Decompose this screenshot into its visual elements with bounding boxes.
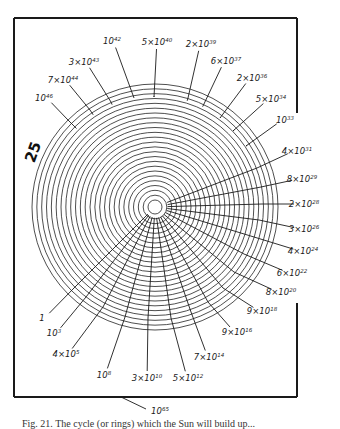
- ring-label: 1046: [35, 94, 53, 103]
- ring-label-exponent: 44: [71, 75, 78, 81]
- leader-line: [246, 124, 277, 146]
- ring-label: 2×1039: [186, 40, 216, 49]
- ring-label-exponent: 31: [305, 146, 312, 152]
- ring-label-base: 8×10: [287, 174, 310, 184]
- ring-label-exponent: 42: [114, 36, 121, 42]
- ring-label-exponent: 12: [196, 373, 203, 379]
- ring-label: 2×1028: [289, 200, 319, 209]
- leader-line: [220, 84, 246, 119]
- ring-label-base: 2×10: [289, 199, 312, 209]
- ring-label-base: 3×10: [132, 373, 155, 383]
- ring-label: 1042: [103, 37, 121, 46]
- ring-label: 3×1026: [289, 225, 319, 234]
- leader-line: [147, 218, 154, 371]
- ring-label-base: 4×10: [53, 349, 76, 359]
- ring-label: 5×1034: [256, 95, 286, 104]
- ring-label: 6×1022: [277, 269, 307, 278]
- ring-label: 3×1010: [132, 374, 162, 383]
- bottom-label: 1065: [151, 407, 169, 416]
- ring: [148, 200, 162, 214]
- ring-label: 108: [97, 371, 111, 380]
- ring-label-base: 2×10: [237, 73, 260, 83]
- ring-label: 9×1018: [247, 307, 277, 316]
- ring-label-exponent: 26: [312, 224, 319, 230]
- ring-label-base: 9×10: [247, 306, 270, 316]
- ring-label-exponent: 39: [209, 39, 216, 45]
- ring-label-exponent: 34: [279, 94, 286, 100]
- ring-label: 7×1044: [48, 76, 78, 85]
- ring-label-exponent: 5: [76, 349, 80, 355]
- ring-label: 7×1014: [194, 353, 224, 362]
- ring-label-exponent: 28: [312, 199, 319, 205]
- ring-label: 103: [47, 329, 61, 338]
- ring-label-exponent: 10: [155, 373, 162, 379]
- ring-label: 4×105: [53, 350, 80, 359]
- leader-line: [168, 204, 294, 207]
- figure-caption: Fig. 21. The cycle (or rings) which the …: [22, 418, 255, 429]
- ring-label-exponent: 43: [92, 57, 99, 63]
- ring-label-base: 9×10: [222, 327, 245, 337]
- ring-label-exponent: 24: [311, 246, 318, 252]
- leader-line: [90, 68, 113, 105]
- leader-line: [203, 67, 222, 107]
- ring-label-base: 3×10: [289, 224, 312, 234]
- ring-label-base: 10: [47, 328, 58, 338]
- ring-label: 9×1016: [222, 328, 252, 337]
- ring-label-exponent: 37: [234, 56, 241, 62]
- ring-label: 1: [39, 314, 44, 323]
- leader-line: [187, 51, 199, 101]
- ring-label-base: 2×10: [186, 39, 209, 49]
- ring-label: 6×1037: [211, 57, 241, 66]
- leader-line: [154, 49, 157, 97]
- ring-label-base: 10: [276, 115, 287, 125]
- ring-label-base: 6×10: [211, 56, 234, 66]
- ring-label-exponent: 3: [58, 328, 62, 334]
- ring-label-base: 6×10: [277, 268, 300, 278]
- ring-label-exponent: 36: [260, 73, 267, 79]
- ring-label-exponent: 22: [300, 268, 307, 274]
- ring-label-base: 1: [39, 313, 44, 323]
- ring-label-base: 5×10: [256, 94, 279, 104]
- leader-line: [70, 85, 94, 115]
- ring-label-base: 5×10: [173, 373, 196, 383]
- ring-label: 2×1036: [237, 74, 267, 83]
- ring-label: 4×1031: [282, 147, 312, 156]
- ring-label-exponent: 14: [217, 352, 224, 358]
- ring-label-base: 7×10: [194, 352, 217, 362]
- ring-label: 5×1012: [173, 374, 203, 383]
- ring-label: 3×1043: [69, 58, 99, 67]
- leader-line: [116, 48, 134, 99]
- ring-label-exponent: 33: [287, 115, 294, 121]
- ring-label: 5×1040: [142, 38, 172, 47]
- ring-label-exponent: 40: [165, 37, 172, 43]
- ring-label-exponent: 8: [108, 370, 112, 376]
- ring-label-exponent: 16: [245, 327, 252, 333]
- ring-label-exponent: 18: [270, 306, 277, 312]
- ring-label-base: 10: [97, 370, 108, 380]
- ring-label-base: 3×10: [69, 57, 92, 67]
- bottom-label-leader: [121, 397, 146, 409]
- ring-label: 1033: [276, 116, 294, 125]
- ring-label: 4×1024: [288, 247, 318, 256]
- ring-label-base: 10: [103, 36, 114, 46]
- ring-label-exponent: 29: [310, 174, 317, 180]
- ring-label-base: 4×10: [288, 246, 311, 256]
- ring-label-exponent: 46: [46, 93, 53, 99]
- ring-label-base: 4×10: [282, 146, 305, 156]
- ring-label: 8×1029: [287, 175, 317, 184]
- ring-label-base: 5×10: [142, 37, 165, 47]
- ring-label-base: 8×10: [266, 287, 289, 297]
- ring-label-base: 7×10: [48, 75, 71, 85]
- leader-line: [168, 180, 293, 204]
- ring-label-base: 10: [35, 93, 46, 103]
- ring-label: 8×1020: [266, 288, 296, 297]
- ring-label-exponent: 20: [289, 287, 296, 293]
